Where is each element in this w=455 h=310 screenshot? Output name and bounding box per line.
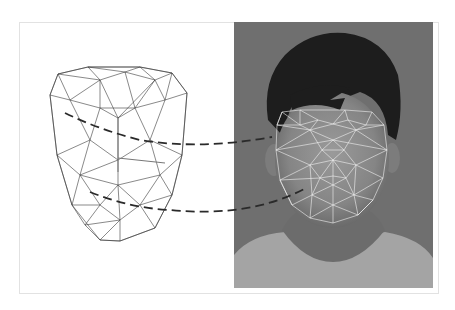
- mesh-edge: [135, 108, 150, 140]
- mesh-edge: [100, 220, 120, 240]
- mesh-edge: [155, 195, 172, 228]
- mesh-edge: [182, 93, 187, 155]
- mesh-edge: [150, 140, 182, 155]
- mesh-edge: [100, 205, 120, 220]
- mesh-edge: [57, 140, 90, 155]
- mesh-edge: [100, 185, 118, 205]
- mesh-edge: [118, 80, 155, 118]
- mesh-edge: [85, 225, 100, 240]
- mesh-edge: [118, 140, 150, 160]
- mesh-edge: [58, 74, 100, 80]
- figure-canvas: [0, 0, 455, 310]
- mesh-edge: [150, 100, 165, 140]
- axis-arrow: [118, 158, 165, 163]
- mesh-edge: [90, 140, 118, 160]
- mesh-edge: [140, 195, 172, 205]
- mesh-edge: [80, 160, 118, 175]
- mesh-edge: [140, 175, 160, 205]
- mesh-edge: [120, 205, 140, 220]
- mesh-edge: [57, 155, 80, 175]
- mesh-edge: [165, 93, 187, 100]
- mesh-edge: [100, 240, 120, 241]
- mesh-edge: [72, 175, 80, 205]
- mesh-edge: [85, 220, 120, 225]
- mesh-edge: [72, 205, 85, 225]
- mesh-edge: [58, 74, 70, 100]
- mesh-edge: [80, 140, 90, 175]
- mesh-edge: [100, 72, 125, 80]
- mesh-edge: [125, 72, 135, 108]
- face-photo: [234, 22, 433, 288]
- mesh-edge: [88, 67, 125, 72]
- mesh-edge: [50, 95, 57, 155]
- mesh-edge: [172, 155, 182, 195]
- mesh-edge: [70, 100, 100, 108]
- mesh-edge: [140, 67, 172, 73]
- mesh-edge: [70, 80, 100, 100]
- mesh-edge: [118, 175, 160, 185]
- mesh-edge: [155, 73, 172, 80]
- mesh-edge: [155, 80, 165, 100]
- mesh-edge: [172, 73, 187, 93]
- mesh-edge: [160, 155, 182, 175]
- mesh-edge: [150, 140, 160, 175]
- mesh-edge: [50, 74, 58, 95]
- mesh-edge: [58, 67, 88, 74]
- mesh-edge: [57, 155, 72, 205]
- mesh-edge: [50, 95, 70, 100]
- mesh-edge: [85, 205, 100, 225]
- mesh-edge: [135, 80, 155, 108]
- mesh-edge: [160, 175, 172, 195]
- mesh-edge: [100, 80, 118, 118]
- mesh-edge: [120, 228, 155, 241]
- mesh-edge: [165, 73, 172, 100]
- mesh-edge: [125, 67, 140, 72]
- mesh-edge: [88, 67, 100, 80]
